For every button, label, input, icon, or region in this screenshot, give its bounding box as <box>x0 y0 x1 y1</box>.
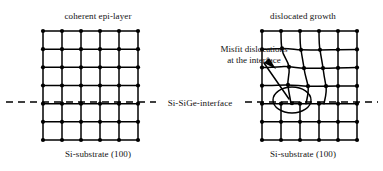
atom <box>98 120 102 124</box>
caption-left-si-substrate: Si-substrate (100) <box>65 149 131 160</box>
misfit-dislocation-annotation: Misfit dislocations at the interface <box>202 44 306 66</box>
atom <box>98 65 102 69</box>
atom <box>317 138 321 142</box>
atom <box>317 120 321 124</box>
atom <box>41 102 45 106</box>
atom <box>260 29 264 33</box>
atom <box>60 102 64 106</box>
atom <box>60 120 64 124</box>
atom <box>136 120 140 124</box>
atom <box>98 102 102 106</box>
atom <box>260 102 264 106</box>
atom <box>298 138 302 142</box>
atom <box>136 83 140 87</box>
dislocation-highlight-ellipse <box>273 87 311 113</box>
atom <box>306 84 310 88</box>
atom <box>355 66 359 70</box>
atom <box>41 65 45 69</box>
atom <box>79 120 83 124</box>
atom <box>355 120 359 124</box>
atom <box>324 84 328 88</box>
atom <box>79 83 83 87</box>
atom <box>302 66 306 70</box>
figure-canvas: coherent epi-layer dislocated growth Si-… <box>0 0 383 171</box>
atom <box>355 47 359 51</box>
atom <box>336 29 340 33</box>
atom <box>117 47 121 51</box>
atom <box>355 102 359 106</box>
atom <box>60 29 64 33</box>
atom <box>279 29 283 33</box>
lattice-diagram-svg <box>0 0 383 171</box>
atom <box>98 29 102 33</box>
atom <box>60 138 64 142</box>
title-coherent-epi-layer: coherent epi-layer <box>64 11 131 22</box>
atom <box>136 102 140 106</box>
atom <box>60 65 64 69</box>
atom <box>41 120 45 124</box>
atom <box>355 29 359 33</box>
atom <box>79 47 83 51</box>
atom <box>41 47 45 51</box>
left-lattice <box>43 31 138 140</box>
atom <box>79 29 83 33</box>
atom <box>79 102 83 106</box>
atom <box>136 47 140 51</box>
atom <box>98 83 102 87</box>
atom <box>79 65 83 69</box>
atom-dislocation-core <box>290 101 294 105</box>
atom <box>260 84 264 88</box>
interface-label: Si-SiGe-interface <box>166 98 235 109</box>
atom <box>336 48 340 52</box>
atom <box>336 120 340 124</box>
atom <box>279 138 283 142</box>
atom <box>260 120 264 124</box>
atom <box>79 138 83 142</box>
atom <box>279 120 283 124</box>
atom <box>117 29 121 33</box>
atom <box>355 138 359 142</box>
atom <box>98 138 102 142</box>
atom <box>298 29 302 33</box>
atom <box>336 102 340 106</box>
atom <box>260 65 264 69</box>
atom <box>60 83 64 87</box>
annotation-line-2: at the interface <box>202 55 306 66</box>
atom <box>336 138 340 142</box>
title-dislocated-growth: dislocated growth <box>270 11 336 22</box>
leader-stroke <box>264 63 289 99</box>
atom <box>318 48 322 52</box>
atom <box>136 65 140 69</box>
atom <box>60 47 64 51</box>
atom <box>286 83 290 87</box>
atom <box>117 120 121 124</box>
atom <box>336 84 340 88</box>
atom <box>279 102 283 106</box>
atom <box>117 83 121 87</box>
atom <box>98 47 102 51</box>
atom <box>298 120 302 124</box>
atom <box>260 138 264 142</box>
atom <box>136 29 140 33</box>
annotation-line-1: Misfit dislocations <box>202 44 306 55</box>
atom <box>41 138 45 142</box>
atom <box>117 102 121 106</box>
atom <box>298 102 302 106</box>
atom <box>336 66 340 70</box>
caption-right-si-substrate: Si-substrate (100) <box>270 149 336 160</box>
atom <box>117 65 121 69</box>
atom <box>317 102 321 106</box>
atom <box>321 66 325 70</box>
right-hline-2 <box>262 67 357 69</box>
atom <box>317 29 321 33</box>
atom <box>136 138 140 142</box>
atom <box>41 83 45 87</box>
atom <box>355 84 359 88</box>
atom <box>41 29 45 33</box>
atom <box>117 138 121 142</box>
